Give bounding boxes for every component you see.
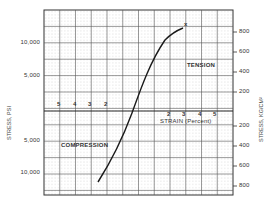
- compression-label: COMPRESSION: [61, 142, 108, 148]
- strain-tick-label: 5: [213, 111, 217, 117]
- end-marker: x: [184, 21, 188, 27]
- tension-label: TENSION: [187, 62, 215, 68]
- strain-axis-title: STRAIN (Percent): [160, 118, 212, 124]
- left-tick-label: 10,000: [20, 169, 40, 175]
- right-tick-label: 400: [239, 142, 250, 148]
- right-tick-label: 200: [239, 88, 250, 94]
- strain-tick-label: 4: [198, 111, 202, 117]
- strain-tick-label: 2: [167, 111, 171, 117]
- left-axis-title: STRESS, PSI: [6, 106, 12, 140]
- left-tick-label: 5,000: [24, 72, 40, 78]
- strain-tick-label: 3: [182, 111, 186, 117]
- stress-strain-chart: [0, 0, 269, 218]
- left-tick-label: 10,000: [20, 39, 40, 45]
- right-tick-label: 400: [239, 68, 250, 74]
- strain-tick-label: 3: [88, 101, 92, 107]
- right-axis-title: STRESS, KG/CM²: [258, 97, 264, 142]
- strain-tick-label: 5: [57, 101, 61, 107]
- strain-tick-label: 4: [73, 101, 77, 107]
- right-tick-label: 800: [239, 28, 250, 34]
- right-tick-label: 600: [239, 48, 250, 54]
- right-tick-label: 600: [239, 162, 250, 168]
- right-tick-label: 200: [239, 122, 250, 128]
- strain-tick-label: 2: [104, 101, 108, 107]
- right-tick-label: 800: [239, 182, 250, 188]
- left-tick-label: 5,000: [24, 137, 40, 143]
